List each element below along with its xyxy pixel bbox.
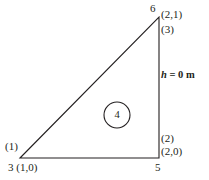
edge-1-label: (1): [5, 141, 18, 152]
node-5-coordinate-label: (2,0): [161, 146, 182, 157]
boundary-condition-equals: =: [169, 69, 175, 80]
boundary-condition-label: h = 0 m: [161, 69, 195, 80]
boundary-condition-unit: m: [186, 69, 195, 80]
edge-3-label: (3): [161, 24, 174, 35]
node-6-number: 6: [150, 3, 156, 14]
triangle-element-diagram: 6 (2,1) (3) h = 0 m 4 (2) (2,0) 5 (1) 3 …: [0, 0, 209, 180]
triangle-element-outline: [20, 17, 159, 158]
node-3-label: 3 (1,0): [8, 162, 37, 173]
element-number-4: 4: [107, 110, 127, 121]
boundary-condition-value: 0: [178, 69, 183, 80]
node-5-number: 5: [155, 162, 161, 173]
edge-2-label: (2): [161, 133, 174, 144]
node-6-coordinate-label: (2,1): [161, 9, 182, 20]
